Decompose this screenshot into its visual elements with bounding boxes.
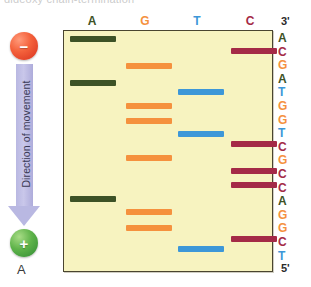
lane-header-t: T (184, 14, 210, 28)
five-prime-label: 5' (281, 262, 290, 274)
positive-electrode-label: + (20, 236, 29, 251)
sequence-base-3: G (278, 59, 302, 73)
sequence-base-5: T (278, 86, 302, 100)
gel-band-c-2 (231, 141, 277, 147)
sequence-base-1: A (278, 32, 302, 46)
gel-band-c-1 (231, 48, 277, 54)
gel-band-g-2 (126, 103, 172, 109)
direction-arrow-label: Direction of movement (20, 69, 32, 199)
read-sequence-column: ACGATGGTCGCCAGGCT (278, 32, 302, 263)
sequence-base-2: C (278, 46, 302, 60)
clipped-caption-text: dideoxy chain-termination (4, 0, 254, 5)
lane-header-c: C (237, 14, 263, 28)
sequence-base-14: G (278, 209, 302, 223)
sequence-base-9: C (278, 141, 302, 155)
negative-electrode: − (10, 32, 38, 60)
sequence-base-16: C (278, 236, 302, 250)
gel-band-a-2 (70, 80, 116, 86)
sequence-base-6: G (278, 100, 302, 114)
gel-band-t-1 (178, 89, 224, 95)
direction-arrow-head (8, 206, 40, 226)
sequence-base-4: A (278, 73, 302, 87)
sequence-base-10: G (278, 154, 302, 168)
sequence-base-12: C (278, 182, 302, 196)
gel-band-t-2 (178, 131, 224, 137)
sequencing-gel (63, 30, 273, 272)
sequence-base-8: T (278, 127, 302, 141)
negative-electrode-label: − (20, 39, 29, 54)
gel-band-g-4 (126, 155, 172, 161)
gel-band-g-3 (126, 118, 172, 124)
gel-band-g-6 (126, 225, 172, 231)
gel-band-g-1 (126, 63, 172, 69)
positive-electrode: + (10, 229, 38, 257)
gel-band-a-1 (70, 36, 116, 42)
lane-header-a: A (79, 14, 105, 28)
gel-band-a-3 (70, 196, 116, 202)
three-prime-label: 3' (281, 15, 290, 27)
sequence-base-13: A (278, 195, 302, 209)
gel-band-c-3 (231, 168, 277, 174)
gel-band-c-4 (231, 182, 277, 188)
sequence-base-11: C (278, 168, 302, 182)
gel-band-g-5 (126, 209, 172, 215)
gel-band-t-3 (178, 246, 224, 252)
sequence-base-7: G (278, 114, 302, 128)
sequence-base-17: T (278, 250, 302, 264)
lane-header-g: G (132, 14, 158, 28)
gel-band-c-5 (231, 236, 277, 242)
figure-canvas: dideoxy chain-termination − Direction of… (0, 0, 311, 287)
sequence-base-15: G (278, 222, 302, 236)
panel-letter: A (17, 262, 26, 277)
